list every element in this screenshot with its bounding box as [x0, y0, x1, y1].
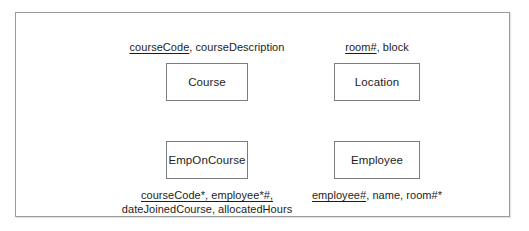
diagram-frame: courseCode, courseDescription Course roo… [15, 12, 510, 217]
primary-key-employee: employee# [312, 189, 366, 201]
entity-label-emponcourse: EmpOnCourse [168, 154, 245, 166]
primary-key-emponcourse: courseCode*, employee*#, [141, 189, 273, 201]
diagram-canvas: courseCode, courseDescription Course roo… [0, 0, 529, 231]
attribute-line: courseCode*, employee*#, [122, 189, 292, 203]
entity-box-employee[interactable]: Employee [334, 141, 420, 179]
attribute-rest-location: , block [377, 41, 409, 53]
attribute-rest-employee: , name, room#* [366, 189, 442, 201]
entity-label-location: Location [355, 76, 399, 88]
attribute-rest-course: , courseDescription [189, 41, 284, 53]
attribute-line-nonkey-emponcourse: dateJoinedCourse, allocatedHours [122, 203, 292, 217]
attribute-line: courseCode, courseDescription [130, 41, 285, 55]
entity-box-course[interactable]: Course [166, 63, 248, 101]
attribute-list-course: courseCode, courseDescription [130, 41, 285, 55]
primary-key-location: room# [345, 41, 376, 53]
attribute-line: room#, block [345, 41, 409, 55]
entity-box-emponcourse[interactable]: EmpOnCourse [166, 141, 248, 179]
entity-box-location[interactable]: Location [334, 63, 420, 101]
primary-key-course: courseCode [130, 41, 190, 53]
attribute-list-employee: employee#, name, room#* [312, 189, 442, 203]
attribute-line: employee#, name, room#* [312, 189, 442, 203]
attribute-list-emponcourse: courseCode*, employee*#, dateJoinedCours… [122, 189, 292, 216]
entity-label-employee: Employee [351, 154, 403, 166]
entity-label-course: Course [188, 76, 226, 88]
attribute-list-location: room#, block [345, 41, 409, 55]
